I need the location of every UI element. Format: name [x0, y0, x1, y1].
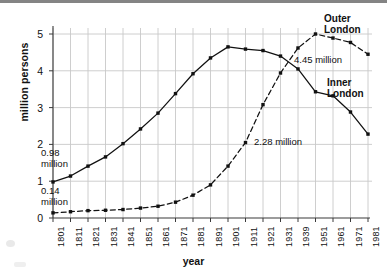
line-chart: million persons year 012345 180118111821… — [0, 0, 387, 274]
annotation-outer-start: 0.14 million — [41, 186, 68, 207]
x-axis-tick-label: 1891 — [215, 226, 224, 247]
x-axis-tick-label: 1801 — [57, 226, 66, 247]
annotation-outer-start-value: 0.14 — [41, 186, 68, 197]
y-axis-tick-label: 3 — [21, 103, 43, 114]
y-axis-title: million persons — [18, 22, 30, 142]
annotation-inner-start-unit: million — [41, 159, 68, 170]
x-axis-title: year — [0, 255, 387, 267]
x-axis-tick-label: 1911 — [250, 227, 259, 247]
x-axis-tick-label: 1851 — [145, 226, 154, 247]
x-axis-tick-label: 1951 — [320, 226, 329, 247]
series-label-inner-line2: London — [327, 88, 364, 99]
annotation-inner-end-value: 2.28 million — [254, 137, 302, 148]
series-label-outer-london: Outer London — [324, 13, 361, 35]
annotation-outer-start-unit: million — [41, 197, 68, 208]
x-axis-tick-label: 1901 — [232, 226, 241, 247]
x-axis-tick-marks — [53, 218, 368, 222]
annotation-inner-start-value: 0.98 — [41, 148, 68, 159]
series-label-outer-line1: Outer — [324, 13, 361, 24]
x-axis-tick-label: 1831 — [110, 226, 119, 247]
series-label-inner-line1: Inner — [327, 77, 364, 88]
x-axis-tick-label: 1821 — [92, 226, 101, 247]
annotation-outer-end-value: 4.45 million — [294, 55, 342, 66]
x-axis-tick-label: 1861 — [162, 226, 171, 247]
x-axis-tick-label: 1931 — [285, 226, 294, 247]
y-axis-tick-label: 0 — [21, 213, 43, 224]
x-axis-tick-label: 1871 — [180, 226, 189, 247]
x-axis-tick-label: 1961 — [337, 226, 346, 247]
annotation-inner-start: 0.98 million — [41, 148, 68, 169]
x-axis-tick-label: 1971 — [355, 226, 364, 247]
y-axis-tick-label: 1 — [21, 176, 43, 187]
x-axis-tick-label: 1939 — [302, 226, 311, 247]
x-axis-tick-label: 1841 — [127, 226, 136, 247]
x-axis-tick-label: 1921 — [267, 226, 276, 247]
y-axis-tick-label: 4 — [21, 66, 43, 77]
x-axis-tick-label: 1811 — [75, 227, 84, 247]
series-label-inner-london: Inner London — [327, 77, 364, 99]
x-axis-tick-label: 1981 — [372, 226, 381, 247]
series-label-outer-line2: London — [324, 24, 361, 35]
x-axis-tick-label: 1881 — [197, 226, 206, 247]
y-axis-tick-label: 5 — [21, 29, 43, 40]
y-axis-tick-label: 2 — [21, 139, 43, 150]
